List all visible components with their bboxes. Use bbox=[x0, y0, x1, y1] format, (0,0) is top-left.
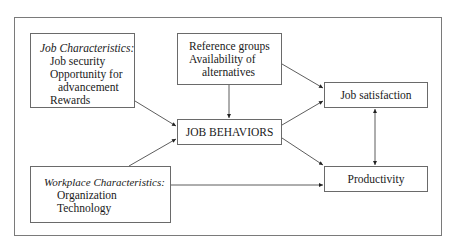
arrow-behaviors-to-productivity bbox=[282, 138, 323, 165]
reference-groups-box: Reference groups Availability of alterna… bbox=[177, 33, 282, 85]
reference-groups-line: Availability of bbox=[189, 53, 281, 66]
productivity-box: Productivity bbox=[324, 166, 428, 192]
job-characteristics-item: Opportunity for bbox=[40, 68, 134, 81]
job-characteristics-title: Job Characteristics: bbox=[40, 42, 134, 55]
arrow-jobchar-to-behaviors bbox=[135, 101, 176, 126]
job-characteristics-box: Job Characteristics: Job security Opport… bbox=[30, 33, 135, 108]
arrow-workplace-to-behaviors bbox=[129, 139, 176, 166]
workplace-characteristics-item: Technology bbox=[44, 202, 170, 215]
productivity-label: Productivity bbox=[348, 173, 405, 186]
workplace-characteristics-title: Workplace Characteristics: bbox=[44, 176, 170, 189]
job-behaviors-box: JOB BEHAVIORS bbox=[177, 119, 282, 145]
job-satisfaction-label: Job satisfaction bbox=[340, 89, 411, 102]
job-characteristics-item: Rewards bbox=[40, 94, 134, 107]
job-satisfaction-box: Job satisfaction bbox=[324, 82, 428, 108]
reference-groups-line: alternatives bbox=[189, 66, 281, 79]
arrow-behaviors-to-satisfaction bbox=[282, 101, 323, 125]
reference-groups-line: Reference groups bbox=[189, 40, 281, 53]
job-characteristics-item: Job security bbox=[40, 55, 134, 68]
workplace-characteristics-item: Organization bbox=[44, 189, 170, 202]
arrow-ref-to-satisfaction bbox=[282, 64, 323, 88]
job-characteristics-item: advancement bbox=[40, 81, 134, 94]
job-behaviors-label: JOB BEHAVIORS bbox=[186, 126, 274, 139]
workplace-characteristics-box: Workplace Characteristics: Organization … bbox=[30, 166, 171, 223]
